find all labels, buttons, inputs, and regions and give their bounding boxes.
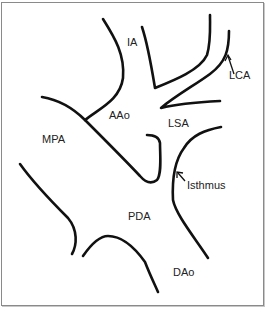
label-pda: PDA — [128, 210, 151, 222]
label-ia: IA — [127, 36, 138, 48]
ia-lca-wall — [142, 15, 210, 88]
label-isthmus: Isthmus — [187, 179, 226, 191]
label-aao: AAo — [109, 109, 130, 121]
label-mpa: MPA — [42, 133, 66, 145]
isthmus-wall — [173, 127, 221, 258]
isthmus-arrow-icon — [178, 173, 185, 181]
label-lsa: LSA — [168, 117, 189, 129]
mpa-lower-wall — [20, 164, 76, 254]
ia-left-wall — [85, 19, 123, 120]
label-dao: DAo — [173, 266, 194, 278]
aortic-arch-diagram: IA LCA AAo LSA MPA Isthmus PDA DAo — [0, 0, 272, 309]
label-lca: LCA — [229, 69, 251, 81]
pda-dao-wall — [83, 236, 158, 292]
